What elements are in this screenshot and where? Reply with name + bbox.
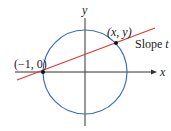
x-axis-label: x: [159, 65, 166, 79]
point-x-y: [114, 41, 118, 45]
slope-label-var: t: [165, 37, 169, 51]
slope-label-text: Slope: [135, 37, 165, 51]
y-axis-label: y: [81, 3, 88, 17]
point-label-minus-one-zero: (−1, 0): [14, 57, 47, 71]
point-label-x-y: (x, y): [107, 25, 132, 39]
x-axis-arrow-icon: [151, 70, 157, 75]
slope-label: Slope t: [135, 37, 169, 51]
unit-circle-diagram: y x (−1, 0) (x, y) Slope t: [0, 0, 171, 131]
